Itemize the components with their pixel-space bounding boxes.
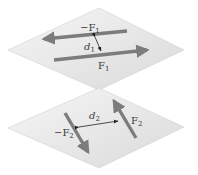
- plane-1-surface: [8, 8, 184, 90]
- plane-2: d2 −F2 F2: [8, 88, 184, 168]
- couple-diagram: −F1 d1 F1 d2 −F2 F2: [0, 0, 198, 175]
- plane-2-surface: [8, 88, 184, 168]
- plane-1: −F1 d1 F1: [8, 8, 184, 90]
